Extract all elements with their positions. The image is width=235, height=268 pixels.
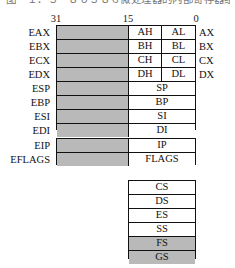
- es-cell: ES: [129, 209, 195, 222]
- esi-word-cell: SI: [129, 110, 195, 123]
- label-ebx: EBX: [0, 40, 53, 53]
- divider-bit15-esp: [128, 82, 129, 95]
- edi-word-cell: DI: [129, 124, 195, 137]
- register-row-ebp: BP: [57, 96, 195, 109]
- divider-byte-ebx: [161, 40, 162, 53]
- segment-row-es: ES: [129, 209, 195, 222]
- bit-tick-31: 31: [48, 13, 64, 25]
- divider-byte-ecx: [161, 54, 162, 67]
- label-eax: EAX: [0, 26, 53, 39]
- register-row-edx: DH DL: [57, 68, 195, 81]
- label-eip: EIP: [0, 139, 53, 152]
- ebx-low-byte-cell: BL: [162, 40, 195, 53]
- ecx-high-byte-cell: CH: [129, 54, 161, 67]
- divider-bit15-eax: [128, 26, 129, 39]
- ebp-word-cell: BP: [129, 96, 195, 109]
- x86-register-diagram: 图－１．３ ８０３８６微处理器的内部寄存器组结构 31 15 0 AH AL B…: [0, 0, 235, 268]
- register-row-eip: IP: [57, 139, 195, 152]
- caption-fragment-text: 图－１．３ ８０３８６微处理器的内部寄存器组结构: [6, 0, 230, 6]
- ebx-upper-word-cell: [57, 40, 128, 53]
- edi-upper-word-cell: [57, 124, 128, 137]
- ebp-upper-word-cell: [57, 96, 128, 109]
- divider-bit15-eflags: [128, 153, 129, 166]
- divider-bit15-ebx: [128, 40, 129, 53]
- label-esp: ESP: [0, 82, 53, 95]
- divider-bit15-edi: [128, 124, 129, 137]
- eip-word-cell: IP: [129, 139, 195, 152]
- divider-bit15-edx: [128, 68, 129, 81]
- eflags-upper-word-cell: [57, 153, 128, 166]
- general-purpose-register-block: AH AL BH BL CH CL DH DL: [56, 25, 196, 130]
- label-ebp: EBP: [0, 96, 53, 109]
- label-bx: BX: [199, 40, 233, 53]
- esp-word-cell: SP: [129, 82, 195, 95]
- divider-byte-eax: [161, 26, 162, 39]
- cs-cell: CS: [129, 181, 195, 194]
- eflags-word-cell: FLAGS: [129, 153, 195, 166]
- bit-tick-0: 0: [188, 13, 204, 25]
- eax-low-byte-cell: AL: [162, 26, 195, 39]
- segment-row-ss: SS: [129, 223, 195, 236]
- register-row-ebx: BH BL: [57, 40, 195, 53]
- gs-cell: GS: [129, 251, 195, 264]
- segment-row-cs: CS: [129, 181, 195, 194]
- divider-byte-edx: [161, 68, 162, 81]
- label-eflags: EFLAGS: [0, 153, 53, 166]
- eax-upper-word-cell: [57, 26, 128, 39]
- segment-row-fs: FS: [129, 237, 195, 250]
- divider-bit15-eip: [128, 139, 129, 152]
- label-ecx: ECX: [0, 54, 53, 67]
- ebx-high-byte-cell: BH: [129, 40, 161, 53]
- caption-fragment: 图－１．３ ８０３８６微处理器的内部寄存器组结构: [6, 0, 230, 10]
- label-esi: ESI: [0, 110, 53, 123]
- register-row-ecx: CH CL: [57, 54, 195, 67]
- register-row-esi: SI: [57, 110, 195, 123]
- label-ax: AX: [199, 26, 233, 39]
- register-row-eflags: FLAGS: [57, 153, 195, 166]
- divider-bit15-ebp: [128, 96, 129, 109]
- edx-upper-word-cell: [57, 68, 128, 81]
- ds-cell: DS: [129, 195, 195, 208]
- segment-row-ds: DS: [129, 195, 195, 208]
- label-dx: DX: [199, 68, 233, 81]
- edx-high-byte-cell: DH: [129, 68, 161, 81]
- register-row-esp: SP: [57, 82, 195, 95]
- eax-high-byte-cell: AH: [129, 26, 161, 39]
- eip-upper-word-cell: [57, 139, 128, 152]
- edx-low-byte-cell: DL: [162, 68, 195, 81]
- divider-bit15-esi: [128, 110, 129, 123]
- ss-cell: SS: [129, 223, 195, 236]
- divider-bit15-ecx: [128, 54, 129, 67]
- ecx-low-byte-cell: CL: [162, 54, 195, 67]
- label-edi: EDI: [0, 124, 53, 137]
- esp-upper-word-cell: [57, 82, 128, 95]
- fs-cell: FS: [129, 237, 195, 250]
- ecx-upper-word-cell: [57, 54, 128, 67]
- esi-upper-word-cell: [57, 110, 128, 123]
- label-edx: EDX: [0, 68, 53, 81]
- bit-position-ruler: 31 15 0: [0, 13, 235, 25]
- bit-tick-15: 15: [120, 13, 136, 25]
- register-row-eax: AH AL: [57, 26, 195, 39]
- label-cx: CX: [199, 54, 233, 67]
- segment-row-gs: GS: [129, 251, 195, 264]
- segment-register-block: CS DS ES SS FS GS: [128, 180, 196, 259]
- instruction-pointer-flags-block: IP FLAGS: [56, 138, 196, 165]
- register-row-edi: DI: [57, 124, 195, 137]
